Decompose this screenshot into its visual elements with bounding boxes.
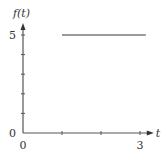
x-ticks: 03 (20, 131, 144, 152)
y-axis-label: f(t) (12, 7, 30, 20)
x-tick-label: 3 (137, 139, 144, 152)
y-tick-label: 0 (9, 127, 16, 140)
chart: 03 05 f(t) t (0, 0, 165, 161)
x-tick-label: 0 (20, 139, 27, 152)
y-axis-arrow-icon (21, 23, 26, 30)
y-tick-label: 5 (9, 29, 16, 42)
x-axis-arrow-icon (147, 131, 154, 136)
x-axis-label: t (156, 127, 161, 140)
